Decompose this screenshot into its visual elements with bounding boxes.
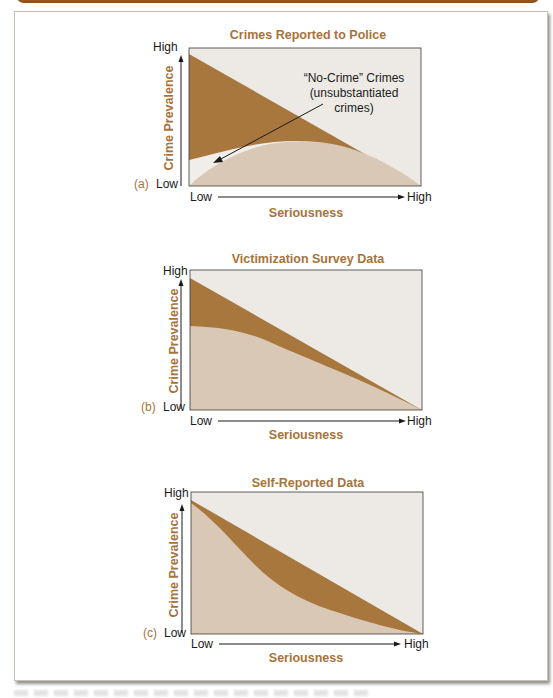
chart-c-plot [0,0,553,698]
x-high-tick: High [404,637,429,651]
x-low-tick: Low [191,637,213,651]
x-axis-label: Seriousness [186,651,426,665]
arrow-head-icon [394,642,401,647]
figures-container: Crimes Reported to Police High Low (a) C… [0,0,553,698]
arrow-head-icon [180,504,185,511]
